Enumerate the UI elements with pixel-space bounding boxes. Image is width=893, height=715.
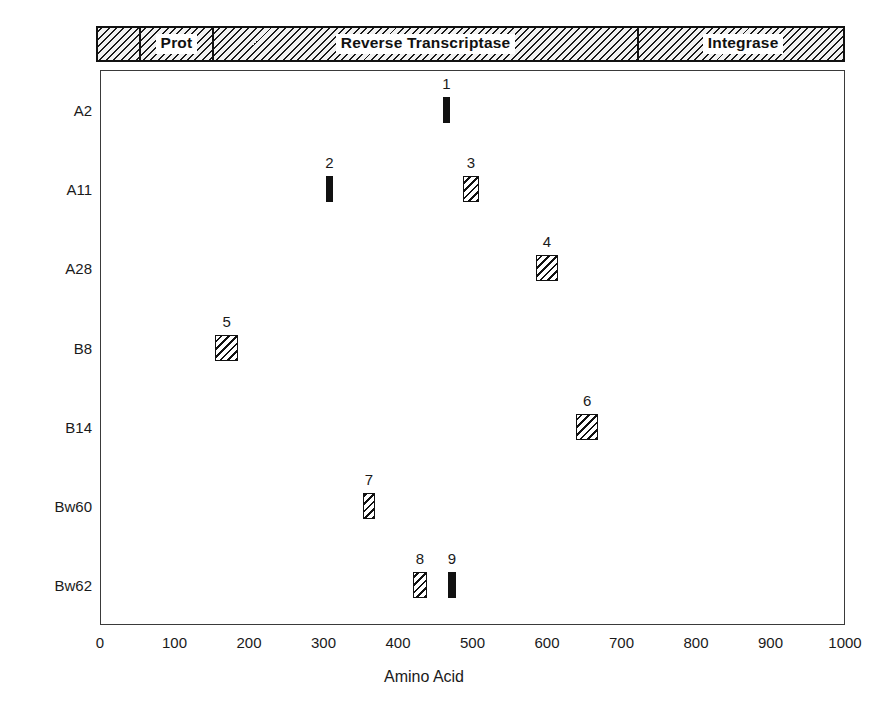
x-axis-title: Amino Acid <box>0 668 893 686</box>
x-tick-label-600: 600 <box>534 634 559 651</box>
x-tick-label-0: 0 <box>96 634 104 651</box>
x-tick-label-800: 800 <box>683 634 708 651</box>
epitope-marker-3 <box>463 176 479 202</box>
epitope-marker-number-3: 3 <box>467 154 475 171</box>
row-label-axis: A2A11A28B8B14Bw60Bw62 <box>0 70 92 625</box>
epitope-marker-number-4: 4 <box>543 233 551 250</box>
x-tick-label-700: 700 <box>609 634 634 651</box>
row-label-b8: B8 <box>6 339 92 356</box>
domain-segment-unlabeled <box>98 28 139 60</box>
x-tick-label-300: 300 <box>311 634 336 651</box>
protein-domain-bar: ProtReverse TranscriptaseIntegrase <box>96 26 845 62</box>
domain-segment-label: Reverse Transcriptase <box>336 34 516 53</box>
epitope-marker-4 <box>536 255 558 281</box>
epitope-marker-number-5: 5 <box>222 313 230 330</box>
row-label-b14: B14 <box>6 418 92 435</box>
epitope-marker-number-2: 2 <box>325 154 333 171</box>
epitope-marker-number-8: 8 <box>416 550 424 567</box>
epitope-marker-6 <box>576 414 598 440</box>
epitope-marker-number-6: 6 <box>583 392 591 409</box>
epitope-marker-number-7: 7 <box>365 471 373 488</box>
domain-segment-label: Integrase <box>703 34 784 53</box>
domain-segment-reverse-transcriptase: Reverse Transcriptase <box>212 28 637 60</box>
epitope-marker-number-1: 1 <box>442 75 450 92</box>
x-axis-tick-labels: 01002003004005006007008009001000 <box>0 634 893 656</box>
x-tick-label-900: 900 <box>758 634 783 651</box>
x-tick-label-400: 400 <box>385 634 410 651</box>
row-label-bw62: Bw62 <box>6 577 92 594</box>
x-tick-label-200: 200 <box>236 634 261 651</box>
epitope-marker-9 <box>448 572 456 598</box>
epitope-marker-8 <box>413 572 427 598</box>
x-tick-label-100: 100 <box>162 634 187 651</box>
x-tick-label-1000: 1000 <box>828 634 861 651</box>
x-axis-title-text: Amino Acid <box>384 668 464 686</box>
row-label-a2: A2 <box>6 101 92 118</box>
domain-segment-integrase: Integrase <box>637 28 845 60</box>
epitope-marker-5 <box>215 335 237 361</box>
epitope-marker-7 <box>363 493 375 519</box>
row-label-a28: A28 <box>6 260 92 277</box>
domain-segment-label: Prot <box>156 34 198 53</box>
x-tick-label-500: 500 <box>460 634 485 651</box>
hla-epitope-map-figure: ProtReverse TranscriptaseIntegrase A2A11… <box>0 0 893 715</box>
epitope-marker-2 <box>326 176 333 202</box>
row-label-a11: A11 <box>6 180 92 197</box>
epitope-marker-number-9: 9 <box>448 550 456 567</box>
epitope-marker-1 <box>443 97 450 123</box>
row-label-bw60: Bw60 <box>6 498 92 515</box>
domain-segment-prot: Prot <box>139 28 212 60</box>
